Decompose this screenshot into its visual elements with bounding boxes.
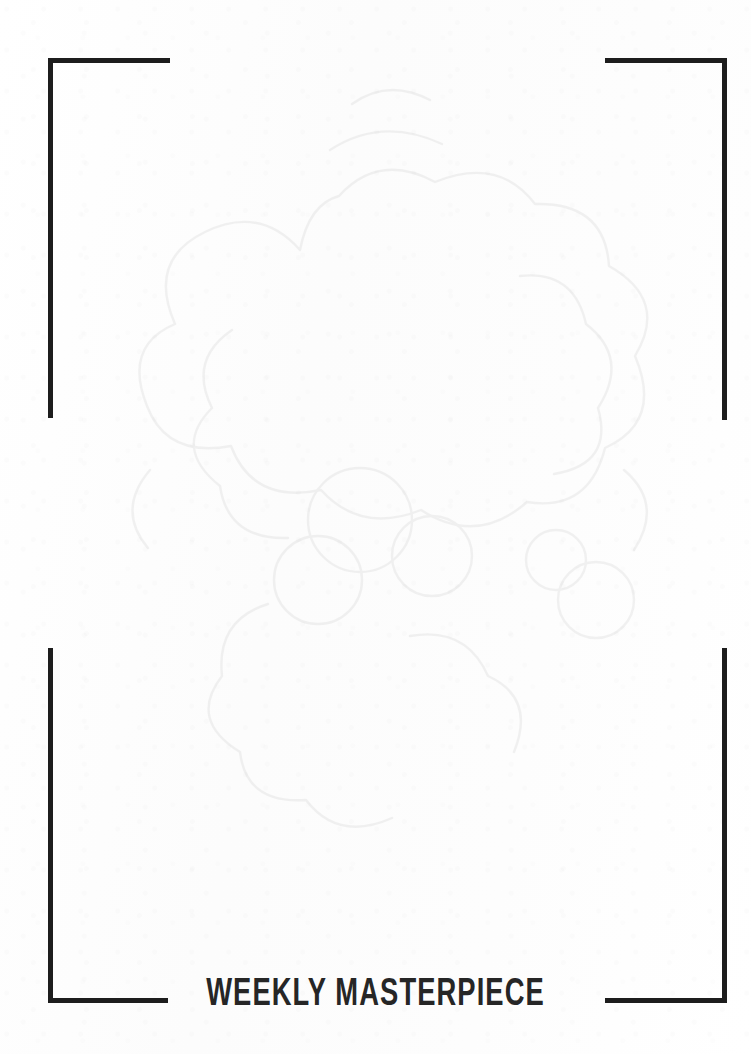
bracket-arm-vertical	[722, 58, 727, 420]
bracket-arm-vertical	[722, 648, 727, 1003]
worksheet-page: WEEKLY MASTERPIECE	[0, 0, 751, 1054]
drawing-area[interactable]	[53, 63, 722, 998]
page-title: WEEKLY MASTERPIECE	[105, 972, 646, 1011]
